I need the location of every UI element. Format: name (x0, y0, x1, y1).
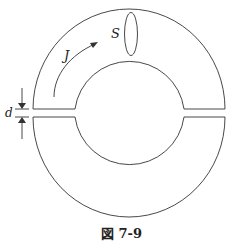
current-arrowhead-icon (90, 42, 98, 48)
gap-arrow-top-head-icon (18, 103, 26, 109)
label-s: S (111, 26, 120, 41)
cross-section-ellipse (125, 13, 138, 56)
label-j: J (61, 48, 70, 63)
current-arrow (54, 44, 95, 97)
ring-diagram: J S d 図 7-9 (0, 0, 229, 242)
label-d: d (5, 106, 13, 120)
figure-caption: 図 7-9 (101, 226, 142, 241)
upper-ring-half (33, 9, 225, 109)
lower-ring-half (33, 117, 225, 217)
